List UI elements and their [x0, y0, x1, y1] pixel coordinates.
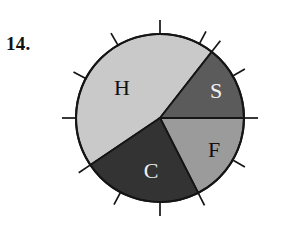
tick-mark-1: [232, 69, 245, 77]
tick-mark-11: [198, 192, 205, 205]
tick-mark-8: [79, 164, 91, 172]
tick-mark-6: [73, 72, 86, 79]
figure-container: 14. HSFC: [0, 0, 283, 238]
pie-chart: HSFC: [0, 0, 283, 238]
tick-mark-9: [114, 191, 121, 204]
tick-mark-5: [111, 33, 119, 46]
pie-slice-label-c: C: [144, 158, 159, 183]
tick-mark-2: [211, 41, 220, 53]
pie-slice-label-s: S: [210, 78, 222, 103]
pie-slice-label-f: F: [208, 137, 220, 162]
tick-mark-12: [232, 160, 245, 168]
pie-slice-label-h: H: [114, 75, 130, 100]
tick-mark-3: [199, 31, 206, 44]
